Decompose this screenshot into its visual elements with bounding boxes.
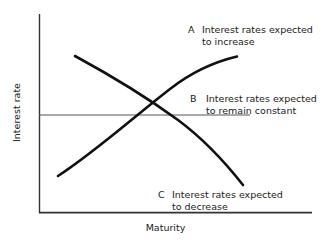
annotation-c-text: Interest rates expected to decrease [172, 189, 283, 213]
series-c-curve [75, 56, 243, 185]
annotation-c-line2: to decrease [172, 201, 283, 213]
annotation-b-key: B [190, 93, 197, 105]
annotation-b-line1: Interest rates expected [206, 93, 317, 104]
annotation-c-key: C [158, 189, 165, 201]
annotation-a-text: Interest rates expected to increase [202, 24, 313, 48]
annotation-a-key: A [188, 24, 195, 36]
x-axis-title: Maturity [0, 222, 331, 233]
annotation-b-line2: to remain constant [206, 105, 317, 117]
annotation-c-line1: Interest rates expected [172, 189, 283, 200]
annotation-a-line1: Interest rates expected [202, 24, 313, 35]
annotation-a-line2: to increase [202, 36, 313, 48]
y-axis-title: Interest rate [11, 58, 22, 168]
yield-curve-figure: A Interest rates expected to increase B … [0, 0, 331, 242]
annotation-b-text: Interest rates expected to remain consta… [206, 93, 317, 117]
